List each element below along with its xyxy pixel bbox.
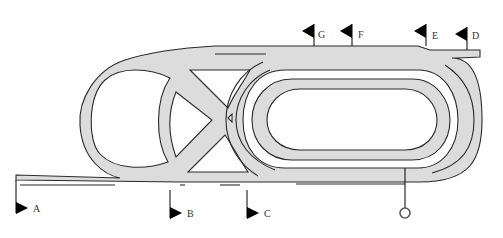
- marker-D: D: [455, 27, 479, 50]
- marker-label-G: G: [318, 29, 325, 40]
- racecourse-diagram: A B C G F E D: [0, 0, 503, 238]
- marker-label-B: B: [187, 208, 194, 219]
- marker-label-F: F: [358, 29, 364, 40]
- marker-label-D: D: [472, 30, 479, 41]
- inner-oval-infield: [267, 89, 437, 150]
- flag-icon: [455, 27, 467, 41]
- marker-G: G: [302, 24, 325, 46]
- marker-label-A: A: [33, 203, 41, 214]
- flag-icon: [302, 24, 314, 38]
- marker-B: B: [170, 190, 194, 219]
- marker-label-E: E: [432, 30, 438, 41]
- flag-icon: [340, 24, 352, 38]
- marker-F: F: [340, 24, 364, 46]
- marker-C: C: [247, 190, 271, 219]
- flag-icon: [16, 202, 28, 214]
- flag-icon: [247, 207, 259, 219]
- flag-icon: [414, 24, 426, 38]
- flag-icon: [170, 207, 182, 219]
- marker-label-C: C: [264, 208, 271, 219]
- marker-E: E: [414, 24, 438, 46]
- left-loop-infield: [91, 70, 170, 167]
